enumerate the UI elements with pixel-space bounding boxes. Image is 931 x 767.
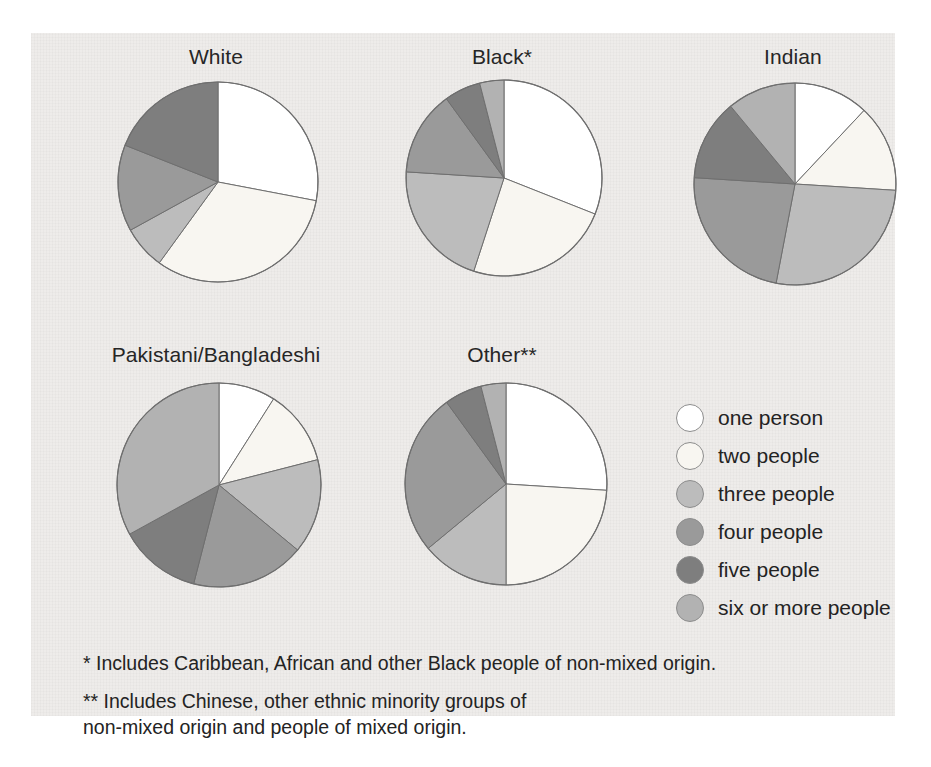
pie-slice-two-people: [506, 484, 607, 585]
pie-svg-indian: [692, 81, 898, 287]
legend-item-three: three people: [676, 475, 926, 513]
footnote-1: * Includes Caribbean, African and other …: [83, 651, 903, 676]
pie-chart-black-graphic: [404, 78, 604, 278]
legend-item-four: four people: [676, 513, 926, 551]
legend-label-five: five people: [718, 558, 820, 582]
pie-chart-white: White: [85, 45, 347, 305]
pie-chart-white-graphic: [116, 80, 320, 284]
pie-svg-other: [403, 381, 609, 587]
legend-label-six_plus: six or more people: [718, 596, 891, 620]
chart-panel: White Black* Indian Pakistani/Bangladesh…: [31, 33, 895, 716]
pie-chart-black-title: Black*: [371, 45, 633, 69]
legend-label-one: one person: [718, 406, 823, 430]
footnotes: * Includes Caribbean, African and other …: [83, 651, 903, 753]
legend-item-five: five people: [676, 551, 926, 589]
legend-label-two: two people: [718, 444, 820, 468]
pie-chart-white-title: White: [85, 45, 347, 69]
legend-swatch-three: [676, 480, 704, 508]
legend-swatch-five: [676, 556, 704, 584]
legend-swatch-one: [676, 404, 704, 432]
legend: one persontwo peoplethree peoplefour peo…: [676, 399, 926, 627]
pie-chart-indian-graphic: [692, 81, 898, 287]
pie-chart-pakistani-bangladeshi-graphic: [115, 381, 323, 589]
pie-svg-pakistani-bangladeshi: [115, 381, 323, 589]
figure-root: White Black* Indian Pakistani/Bangladesh…: [0, 0, 931, 767]
legend-swatch-six_plus: [676, 594, 704, 622]
pie-svg-white: [116, 80, 320, 284]
legend-swatch-four: [676, 518, 704, 546]
pie-svg-black: [404, 78, 604, 278]
legend-swatch-two: [676, 442, 704, 470]
pie-slice-one-person: [506, 383, 607, 490]
pie-chart-indian: Indian: [662, 45, 924, 305]
pie-chart-black: Black*: [371, 45, 633, 305]
pie-chart-pakistani-bangladeshi: Pakistani/Bangladeshi: [85, 343, 347, 605]
pie-chart-other-graphic: [403, 381, 609, 587]
legend-item-one: one person: [676, 399, 926, 437]
pie-chart-indian-title: Indian: [662, 45, 924, 69]
pie-chart-pakistani-bangladeshi-title: Pakistani/Bangladeshi: [85, 343, 347, 367]
footnote-2: ** Includes Chinese, other ethnic minori…: [83, 689, 903, 740]
legend-item-six_plus: six or more people: [676, 589, 926, 627]
legend-label-three: three people: [718, 482, 835, 506]
pie-slice-one-person: [218, 82, 318, 201]
pie-chart-other: Other**: [371, 343, 633, 605]
pie-chart-other-title: Other**: [371, 343, 633, 367]
legend-label-four: four people: [718, 520, 823, 544]
pie-slice-three-people: [776, 184, 896, 285]
legend-item-two: two people: [676, 437, 926, 475]
